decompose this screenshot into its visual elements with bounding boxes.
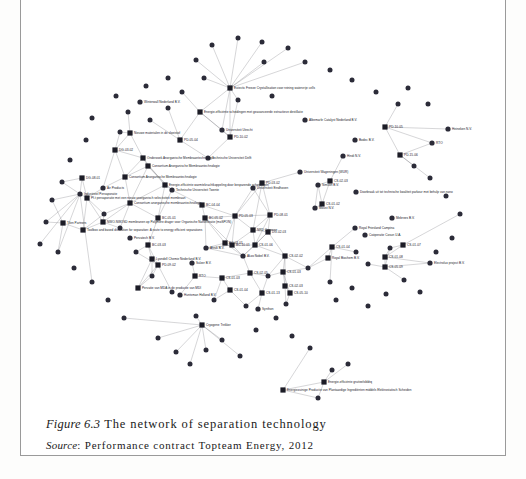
graph-node-organization[interactable] bbox=[177, 292, 182, 297]
graph-node-organization[interactable] bbox=[148, 118, 153, 123]
graph-node-organization[interactable] bbox=[353, 189, 358, 194]
graph-node-organization[interactable] bbox=[352, 225, 357, 230]
graph-node-organization[interactable] bbox=[284, 302, 289, 307]
graph-node-project[interactable] bbox=[247, 270, 252, 275]
graph-node-organization[interactable] bbox=[412, 164, 417, 169]
graph-node-project[interactable] bbox=[199, 322, 204, 327]
graph-node-organization[interactable] bbox=[297, 169, 302, 174]
graph-node-project[interactable] bbox=[227, 134, 232, 139]
graph-node-organization[interactable] bbox=[169, 187, 174, 192]
graph-node-organization[interactable] bbox=[303, 60, 308, 65]
graph-node-organization[interactable] bbox=[350, 78, 355, 83]
graph-node-organization[interactable] bbox=[127, 235, 132, 240]
graph-node-organization[interactable] bbox=[262, 60, 267, 65]
graph-node-project[interactable] bbox=[400, 242, 405, 247]
graph-node-organization[interactable] bbox=[389, 215, 394, 220]
graph-node-organization[interactable] bbox=[330, 368, 335, 373]
graph-node-organization[interactable] bbox=[194, 58, 199, 63]
graph-node-project[interactable] bbox=[162, 182, 167, 187]
graph-node-organization[interactable] bbox=[350, 286, 355, 291]
graph-node-organization[interactable] bbox=[220, 338, 225, 343]
graph-node-organization[interactable] bbox=[328, 280, 333, 285]
graph-node-project[interactable] bbox=[321, 379, 326, 384]
graph-node-project[interactable] bbox=[252, 242, 257, 247]
graph-node-project[interactable] bbox=[287, 290, 292, 295]
graph-node-organization[interactable] bbox=[50, 198, 55, 203]
graph-node-organization[interactable] bbox=[238, 354, 243, 359]
graph-node-project[interactable] bbox=[79, 175, 84, 180]
graph-node-organization[interactable] bbox=[90, 280, 95, 285]
graph-node-organization[interactable] bbox=[102, 212, 107, 217]
graph-node-project[interactable] bbox=[232, 213, 237, 218]
graph-node-organization[interactable] bbox=[286, 46, 291, 51]
graph-node-organization[interactable] bbox=[240, 253, 245, 258]
graph-node-project[interactable] bbox=[127, 130, 132, 135]
graph-node-project[interactable] bbox=[122, 174, 127, 179]
graph-node-organization[interactable] bbox=[84, 138, 89, 143]
graph-node-organization[interactable] bbox=[328, 68, 333, 73]
graph-node-project[interactable] bbox=[127, 200, 132, 205]
graph-node-project[interactable] bbox=[145, 242, 150, 247]
graph-node-project[interactable] bbox=[80, 227, 85, 232]
graph-node-organization[interactable] bbox=[274, 316, 279, 321]
graph-node-organization[interactable] bbox=[44, 220, 49, 225]
graph-node-organization[interactable] bbox=[60, 180, 65, 185]
graph-node-organization[interactable] bbox=[212, 298, 217, 303]
graph-node-project[interactable] bbox=[60, 220, 65, 225]
graph-node-project[interactable] bbox=[112, 147, 117, 152]
graph-node-project[interactable] bbox=[192, 273, 197, 278]
graph-node-organization[interactable] bbox=[106, 298, 111, 303]
graph-node-organization[interactable] bbox=[166, 76, 171, 81]
graph-node-organization[interactable] bbox=[429, 140, 434, 145]
graph-node-organization[interactable] bbox=[56, 250, 61, 255]
graph-node-organization[interactable] bbox=[428, 176, 433, 181]
graph-node-organization[interactable] bbox=[396, 102, 401, 107]
graph-node-project[interactable] bbox=[177, 137, 182, 142]
graph-node-project[interactable] bbox=[259, 290, 264, 295]
graph-node-organization[interactable] bbox=[254, 328, 259, 333]
graph-node-organization[interactable] bbox=[137, 99, 142, 104]
graph-node-organization[interactable] bbox=[302, 117, 307, 122]
graph-node-organization[interactable] bbox=[418, 290, 423, 295]
graph-node-organization[interactable] bbox=[150, 274, 155, 279]
graph-node-organization[interactable] bbox=[219, 127, 224, 132]
graph-node-organization[interactable] bbox=[77, 191, 82, 196]
graph-node-project[interactable] bbox=[155, 262, 160, 267]
graph-node-organization[interactable] bbox=[166, 106, 171, 111]
graph-node-organization[interactable] bbox=[204, 348, 209, 353]
graph-node-organization[interactable] bbox=[114, 94, 119, 99]
graph-node-organization[interactable] bbox=[202, 76, 207, 81]
graph-node-organization[interactable] bbox=[236, 98, 241, 103]
graph-node-project[interactable] bbox=[382, 254, 387, 259]
graph-node-organization[interactable] bbox=[384, 292, 389, 297]
graph-node-organization[interactable] bbox=[362, 232, 367, 237]
graph-node-project[interactable] bbox=[382, 124, 387, 129]
graph-node-project[interactable] bbox=[282, 253, 287, 258]
graph-node-organization[interactable] bbox=[354, 250, 359, 255]
graph-node-organization[interactable] bbox=[374, 90, 379, 95]
graph-node-organization[interactable] bbox=[134, 250, 139, 255]
graph-node-project[interactable] bbox=[250, 227, 255, 232]
graph-node-organization[interactable] bbox=[90, 116, 95, 121]
graph-node-project[interactable] bbox=[145, 163, 150, 168]
graph-node-organization[interactable] bbox=[38, 242, 43, 247]
graph-node-organization[interactable] bbox=[308, 346, 313, 351]
graph-node-organization[interactable] bbox=[122, 316, 127, 321]
graph-node-organization[interactable] bbox=[244, 304, 249, 309]
graph-node-organization[interactable] bbox=[445, 126, 450, 131]
graph-node-organization[interactable] bbox=[180, 90, 185, 95]
graph-node-project[interactable] bbox=[397, 152, 402, 157]
graph-node-project[interactable] bbox=[280, 387, 285, 392]
graph-node-organization[interactable] bbox=[458, 212, 463, 217]
graph-node-project[interactable] bbox=[325, 255, 330, 260]
graph-node-project[interactable] bbox=[329, 244, 334, 249]
graph-node-organization[interactable] bbox=[312, 205, 317, 210]
graph-node-project[interactable] bbox=[222, 240, 227, 245]
graph-node-organization[interactable] bbox=[306, 266, 311, 271]
graph-node-organization[interactable] bbox=[203, 245, 208, 250]
graph-node-organization[interactable] bbox=[72, 266, 77, 271]
graph-node-organization[interactable] bbox=[270, 94, 275, 99]
graph-node-organization[interactable] bbox=[388, 246, 393, 251]
graph-node-organization[interactable] bbox=[406, 86, 411, 91]
graph-node-organization[interactable] bbox=[174, 350, 179, 355]
